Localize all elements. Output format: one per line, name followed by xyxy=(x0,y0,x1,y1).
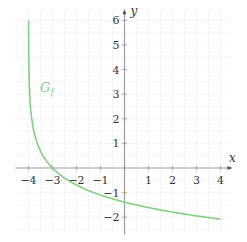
x-tick-label: 3 xyxy=(193,174,200,187)
y-tick-label: 5 xyxy=(113,39,120,52)
y-tick-label: 6 xyxy=(113,14,120,27)
curve-label-main: G xyxy=(40,80,50,95)
x-tick-label: −4 xyxy=(20,174,36,187)
x-tick-label: 4 xyxy=(217,174,224,187)
x-axis-label: x xyxy=(229,151,236,165)
function-plot: −4−3−2−11234−2−1123456 x y Gf xyxy=(0,0,247,242)
x-tick-label: −1 xyxy=(92,174,108,187)
axes xyxy=(15,9,232,234)
x-axis-arrow-icon xyxy=(228,166,233,170)
curve-label-sub: f xyxy=(49,87,55,97)
x-tick-label: −3 xyxy=(44,174,60,187)
y-tick-label: 3 xyxy=(113,88,120,101)
grid-lines xyxy=(17,11,231,232)
y-tick-label: 1 xyxy=(113,137,120,150)
x-tick-label: 2 xyxy=(169,174,176,187)
y-tick-label: −2 xyxy=(103,211,119,224)
y-tick-label: 4 xyxy=(113,64,120,77)
y-axis-label: y xyxy=(130,4,138,18)
x-tick-label: 1 xyxy=(145,174,152,187)
y-axis-arrow-icon xyxy=(123,9,127,14)
y-tick-label: −1 xyxy=(103,187,119,200)
y-tick-label: 2 xyxy=(113,113,120,126)
curve-label: Gf xyxy=(40,80,55,97)
